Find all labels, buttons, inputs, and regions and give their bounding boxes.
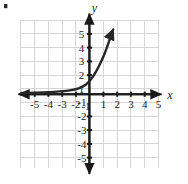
x-tick-label-neg4: -4 bbox=[44, 98, 54, 110]
y-tick-label-2: 2 bbox=[79, 69, 85, 81]
x-axis-label: x bbox=[166, 88, 173, 102]
corner-speck-mark bbox=[4, 4, 7, 8]
y-tick-label-4: 4 bbox=[79, 42, 85, 54]
x-tick-label-1: 1 bbox=[101, 98, 107, 110]
y-tick-label-neg4: -4 bbox=[77, 138, 87, 150]
y-tick-label-5: 5 bbox=[79, 28, 85, 40]
y-tick-label-neg3: -3 bbox=[77, 124, 87, 136]
coordinate-graph-figure: -5 -4 -3 -2 -1 1 2 3 4 5 5 4 3 2 1 -1 -2… bbox=[0, 0, 188, 184]
x-tick-label-5: 5 bbox=[156, 98, 162, 110]
y-axis-label: y bbox=[91, 1, 98, 15]
x-tick-label-2: 2 bbox=[114, 98, 120, 110]
y-tick-label-neg1: -1 bbox=[77, 96, 86, 108]
x-tick-label-4: 4 bbox=[142, 98, 148, 110]
graph-canvas: -5 -4 -3 -2 -1 1 2 3 4 5 5 4 3 2 1 -1 -2… bbox=[0, 0, 188, 184]
y-tick-label-neg5: -5 bbox=[77, 152, 87, 164]
y-tick-label-3: 3 bbox=[79, 55, 85, 67]
x-tick-label-neg3: -3 bbox=[58, 98, 68, 110]
x-tick-label-neg5: -5 bbox=[30, 98, 40, 110]
x-tick-label-3: 3 bbox=[128, 98, 134, 110]
y-tick-label-neg2: -2 bbox=[77, 110, 86, 122]
